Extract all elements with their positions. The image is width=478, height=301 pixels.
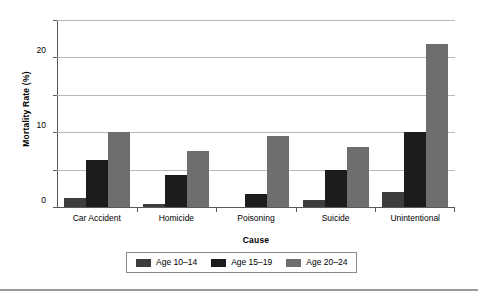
chart-legend: Age 10–14Age 15–19Age 20–24: [126, 252, 357, 273]
bar-set: [57, 20, 137, 207]
legend-label: Age 10–14: [156, 258, 197, 267]
bar-group: Homicide: [137, 20, 217, 207]
bar: [165, 175, 187, 207]
plot-area: 01020304050 Car AccidentHomicidePoisonin…: [57, 20, 455, 208]
bar: [347, 147, 369, 207]
bar-set: [216, 20, 296, 207]
bar: [382, 192, 404, 207]
bar: [86, 160, 108, 207]
bar: [325, 170, 347, 207]
legend-label: Age 15–19: [231, 258, 272, 267]
bar: [187, 151, 209, 207]
bar-group: Suicide: [296, 20, 376, 207]
bar-group: Unintentional: [375, 20, 455, 207]
y-axis-title: Mortality Rate (%): [21, 39, 31, 179]
bar: [64, 198, 86, 207]
x-tick-mark: [296, 208, 297, 212]
x-tick-mark: [454, 208, 455, 212]
x-tick-label: Homicide: [159, 214, 194, 223]
x-tick-label: Poisoning: [237, 214, 274, 223]
y-tick-label: 0: [41, 195, 46, 204]
bar-set: [137, 20, 217, 207]
legend-label: Age 20–24: [306, 258, 347, 267]
bar: [267, 136, 289, 207]
bar-set: [296, 20, 376, 207]
y-tick-label: 20: [37, 46, 46, 55]
legend-item: Age 10–14: [136, 258, 197, 267]
bar: [245, 194, 267, 207]
x-tick-label: Unintentional: [390, 214, 440, 223]
x-tick-mark: [375, 208, 376, 212]
y-tick-label: 10: [37, 120, 46, 129]
bar-group: Car Accident: [57, 20, 137, 207]
bar-group: Poisoning: [216, 20, 296, 207]
mortality-rate-bar-chart: Mortality Rate (%) 01020304050 Car Accid…: [0, 0, 478, 301]
bar: [303, 200, 325, 207]
x-tick-label: Car Accident: [73, 214, 121, 223]
x-tick-mark: [216, 208, 217, 212]
footer-divider: [0, 289, 478, 291]
legend-swatch: [211, 259, 226, 267]
legend-item: Age 15–19: [211, 258, 272, 267]
x-tick-mark: [137, 208, 138, 212]
legend-swatch: [286, 259, 301, 267]
bar: [108, 132, 130, 207]
bar: [143, 204, 165, 207]
bar-set: [375, 20, 455, 207]
x-tick-label: Suicide: [322, 214, 350, 223]
bar: [404, 132, 426, 207]
x-axis-line: [57, 207, 455, 208]
y-tick-mark: 0: [53, 207, 57, 208]
legend-swatch: [136, 259, 151, 267]
legend-item: Age 20–24: [286, 258, 347, 267]
x-axis-title: Cause: [57, 235, 455, 245]
bar: [426, 44, 448, 207]
